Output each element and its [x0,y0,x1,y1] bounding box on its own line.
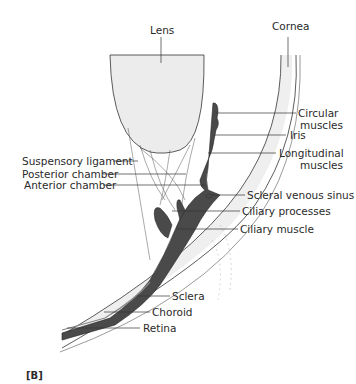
label-suspensory-ligament: Suspensory ligament [22,155,133,167]
label-circular-muscles-2: muscles [300,119,343,131]
label-choroid: Choroid [152,306,193,318]
label-retina: Retina [143,322,176,334]
label-anterior-chamber: Anterior chamber [24,179,116,191]
label-scleral-venous-sinus: Scleral venous sinus [247,189,354,201]
label-cornea: Cornea [272,20,309,32]
label-iris: Iris [290,129,306,141]
label-ciliary-processes: Ciliary processes [242,205,331,217]
label-circular-muscles-1: Circular [298,107,338,119]
label-sclera: Sclera [172,290,205,302]
label-ciliary-muscle: Ciliary muscle [240,223,314,235]
lens-shape [110,55,204,153]
label-lens: Lens [150,24,174,36]
label-longitudinal-muscles-1: Longitudinal [279,147,344,159]
label-longitudinal-muscles-2: muscles [300,159,343,171]
panel-label: [B] [26,370,43,382]
